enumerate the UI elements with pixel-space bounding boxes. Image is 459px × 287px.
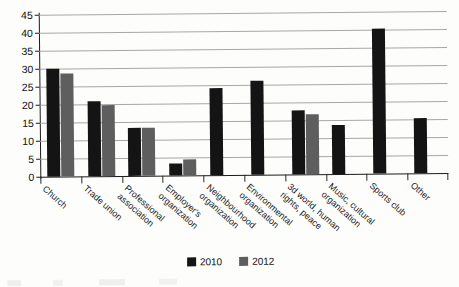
bar-2010 bbox=[169, 163, 182, 175]
y-tick-label-35: 35 bbox=[21, 45, 33, 57]
x-tick-5 bbox=[244, 175, 245, 182]
category-label-line: Trade union bbox=[82, 183, 125, 222]
plot-area: 051015202530354045 bbox=[39, 11, 449, 177]
bar-2012 bbox=[305, 114, 319, 175]
bar-2010 bbox=[332, 125, 345, 174]
bar-2012 bbox=[101, 105, 115, 176]
legend-swatch-2010 bbox=[187, 257, 196, 266]
y-tick-label-10: 10 bbox=[22, 135, 34, 147]
x-tick-9 bbox=[407, 173, 408, 180]
y-tick-label-40: 40 bbox=[21, 27, 33, 39]
x-tick-7 bbox=[326, 174, 327, 181]
y-tick-label-5: 5 bbox=[28, 153, 34, 165]
category-label-line: Church bbox=[41, 184, 70, 211]
bar-series-container bbox=[39, 11, 449, 177]
x-tick-6 bbox=[285, 174, 286, 181]
x-tick-10 bbox=[447, 173, 448, 180]
y-tick-label-30: 30 bbox=[22, 63, 34, 75]
y-tick-label-45: 45 bbox=[21, 9, 33, 21]
bar-2012 bbox=[183, 159, 196, 175]
chart-canvas: 051015202530354045 ChurchTrade unionProf… bbox=[0, 0, 459, 287]
scan-artifact bbox=[7, 278, 187, 286]
legend-swatch-2012 bbox=[239, 257, 248, 266]
bar-2010 bbox=[210, 88, 224, 175]
legend-item-2012: 2012 bbox=[239, 256, 274, 267]
category-label-1: Trade union bbox=[82, 183, 125, 222]
legend-label: 2012 bbox=[252, 256, 274, 267]
bar-2010 bbox=[128, 128, 141, 176]
y-tick-label-0: 0 bbox=[28, 171, 34, 183]
bar-group bbox=[39, 14, 81, 176]
x-tick-2 bbox=[122, 176, 123, 183]
bar-2010 bbox=[250, 81, 264, 175]
bar-group bbox=[120, 14, 162, 176]
category-label-0: Church bbox=[41, 184, 70, 211]
x-tick-8 bbox=[367, 174, 368, 181]
bar-2012 bbox=[60, 73, 74, 176]
bar-group bbox=[324, 12, 366, 174]
bar-group bbox=[80, 14, 122, 176]
x-tick-1 bbox=[81, 176, 82, 183]
y-tick-label-20: 20 bbox=[22, 99, 34, 111]
bar-2010 bbox=[87, 102, 101, 177]
bar-2012 bbox=[142, 128, 155, 176]
bar-group bbox=[202, 13, 244, 175]
category-label-line: Other bbox=[408, 180, 432, 203]
y-tick-label-25: 25 bbox=[22, 81, 34, 93]
x-tick-4 bbox=[203, 175, 204, 182]
category-label-line: Sports club bbox=[367, 181, 408, 219]
bar-2010 bbox=[414, 118, 428, 174]
x-axis-category-labels: ChurchTrade unionProfessionalassociation… bbox=[40, 180, 449, 264]
x-tick-3 bbox=[163, 176, 164, 183]
legend-label: 2010 bbox=[200, 256, 222, 267]
bar-2010 bbox=[46, 69, 60, 177]
category-label-8: Sports club bbox=[367, 181, 408, 219]
bar-group bbox=[243, 12, 285, 174]
category-label-2: Professionalassociation bbox=[115, 183, 166, 232]
bar-group bbox=[161, 13, 203, 175]
category-label-9: Other bbox=[408, 180, 432, 203]
legend-item-2010: 2010 bbox=[187, 256, 222, 267]
category-label-3: Employer'sorganization bbox=[156, 183, 207, 231]
bar-group bbox=[406, 11, 448, 173]
bar-2010 bbox=[291, 110, 305, 175]
x-tick-0 bbox=[40, 177, 41, 184]
y-tick-label-15: 15 bbox=[22, 117, 34, 129]
bar-2010 bbox=[372, 28, 386, 174]
bar-group bbox=[365, 11, 407, 173]
bar-group bbox=[284, 12, 326, 174]
